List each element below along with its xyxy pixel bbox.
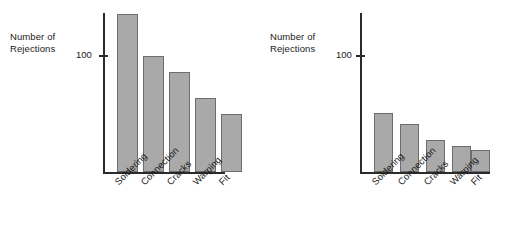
chart-panel-left: Number of Rejections 100 Soldering Conne… [0,0,257,234]
y-tick-label-100: 100 [76,50,92,60]
y-tick-label-100: 100 [336,50,352,60]
x-category-label-fit: Fit [217,172,232,187]
y-axis-title-line2: Rejections [10,43,55,55]
y-axis-line [103,13,105,174]
y-axis-tick-mark [356,55,365,57]
y-axis-title-line1: Number of [10,31,55,43]
y-axis-title-line1: Number of [270,31,315,43]
y-axis-title: Number of Rejections [10,31,55,54]
bar-soldering [117,14,138,172]
y-axis-tick-mark [99,55,108,57]
bar-fit [221,114,242,172]
y-axis-title-line2: Rejections [270,43,315,55]
y-axis-title: Number of Rejections [270,31,315,54]
y-axis-line [360,13,362,174]
x-category-label-fit: Fit [469,172,484,187]
chart-panel-right: Number of Rejections 100 Soldering Conne… [257,0,514,234]
figure-two-pareto-charts: Number of Rejections 100 Soldering Conne… [0,0,514,234]
